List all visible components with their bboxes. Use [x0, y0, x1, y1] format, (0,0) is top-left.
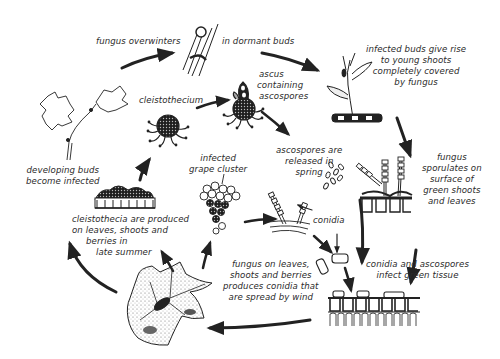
label-fungus-sporulates: fungus sporulates on surface of green sh… [422, 152, 482, 207]
sporulating-tissue-icon [356, 157, 412, 212]
arrow-to-infected-buds [262, 53, 317, 70]
conidia-spores-icon [315, 254, 348, 275]
label-conidia-infect: conidia and ascospores infect green tiss… [366, 259, 469, 281]
label-cleistothecium: cleistothecium [139, 95, 203, 106]
arrow-spores-to-tissue [345, 268, 351, 290]
leaf-tissue-icon [328, 291, 420, 326]
label-fungus-overwinters: fungus overwinters [96, 36, 181, 47]
arrow-leaf-to-grape [203, 243, 210, 268]
arrow-cleistothecia-up [140, 160, 149, 180]
label-conidia: conidia [313, 215, 345, 226]
label-cleistothecia-produced: cleistothecia are produced on leaves, sh… [72, 214, 189, 258]
cleistothecium-icon [147, 115, 190, 147]
powdery-mildew-life-cycle-diagram: fungus overwinters in dormant buds infec… [0, 0, 500, 359]
label-ascus: ascus containing ascospores [257, 69, 308, 102]
label-developing-buds: developing buds become infected [26, 165, 100, 187]
grape-shoot-icon [40, 86, 128, 160]
label-infected-grape-cluster: infected grape cluster [189, 153, 247, 175]
cleistothecia-cluster-icon [95, 186, 155, 208]
label-ascospores-released: ascospores are released in spring [276, 145, 342, 178]
grape-cluster-icon [200, 174, 240, 234]
arrow-to-sporulation [397, 118, 410, 155]
label-infected-buds: infected buds give rise to young shoots … [366, 44, 466, 88]
arrow-to-spores [314, 236, 331, 252]
arrow-overwinter [122, 53, 172, 68]
arrow-tissue-to-leaf [210, 320, 310, 328]
infected-leaf-icon [127, 262, 212, 345]
arrow-ascus-to-release [262, 112, 288, 134]
conidiophore-icon [268, 192, 310, 234]
dormant-bud-icon [183, 24, 218, 76]
label-in-dormant-buds: in dormant buds [222, 36, 294, 47]
label-fungus-produces-conidia: fungus on leaves, shoots and berries pro… [223, 259, 319, 303]
